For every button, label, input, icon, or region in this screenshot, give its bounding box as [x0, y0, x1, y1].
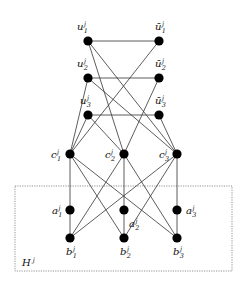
node-u2	[83, 73, 92, 82]
graph-diagram: Hj uj1ūj1uj2ūj2uj3ūj3cj1cj2cj3aj1aj2aj3b…	[0, 0, 243, 286]
label-a3: aj3	[186, 204, 196, 219]
edge-u1-c2	[88, 41, 124, 154]
edge-u2-c3	[88, 78, 177, 154]
node-c2	[119, 149, 128, 158]
node-b3	[172, 233, 181, 242]
label-b1: bj1	[66, 245, 77, 260]
label-ub3: ūj3	[155, 94, 166, 109]
label-u2: uj2	[77, 57, 88, 72]
label-ub2: ūj2	[155, 57, 166, 72]
node-u1	[83, 36, 92, 45]
subgraph-box	[15, 186, 232, 271]
subgraph-label: Hj	[21, 256, 35, 268]
label-a1: aj1	[52, 204, 62, 219]
label-b2: bj2	[120, 245, 131, 260]
label-c2: cj2	[105, 148, 115, 163]
node-c1	[65, 149, 74, 158]
node-ub2	[154, 73, 163, 82]
node-a3	[172, 205, 181, 214]
node-ub1	[154, 36, 163, 45]
node-a2	[119, 205, 128, 214]
label-c1: cj1	[51, 148, 61, 163]
node-a1	[65, 205, 74, 214]
label-u1: uj1	[77, 20, 88, 35]
label-a2: aj2	[129, 217, 139, 232]
node-b1	[65, 233, 74, 242]
label-b3: bj3	[173, 245, 184, 260]
edge-ub2-c2	[124, 78, 159, 154]
node-ub3	[154, 110, 163, 119]
node-c3	[172, 149, 181, 158]
node-u3	[83, 110, 92, 119]
node-b2	[119, 233, 128, 242]
label-c3: cj3	[159, 148, 169, 163]
label-ub1: ūj1	[155, 20, 166, 35]
